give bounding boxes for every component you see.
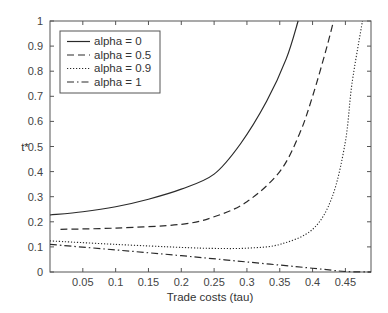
x-tick-label: 0.1 xyxy=(108,276,123,288)
x-axis-label: Trade costs (tau) xyxy=(167,291,254,303)
y-tick-label: 1 xyxy=(37,15,43,27)
x-tick-label: 0.4 xyxy=(305,276,320,288)
y-tick-label: 0.3 xyxy=(28,191,43,203)
x-tick-label: 0.35 xyxy=(269,276,290,288)
y-tick-label: 0.2 xyxy=(28,216,43,228)
legend-label: alpha = 0 xyxy=(94,35,142,47)
series-dashdot-line xyxy=(50,244,371,272)
legend-label: alpha = 0.5 xyxy=(94,49,151,61)
y-tick-label: 0.1 xyxy=(28,241,43,253)
y-axis-label: t* xyxy=(21,141,29,153)
x-tick-label: 0.15 xyxy=(138,276,159,288)
y-tick-label: 0.8 xyxy=(28,65,43,77)
y-tick-label: 0 xyxy=(37,266,43,278)
x-tick-label: 0.05 xyxy=(72,276,93,288)
y-tick-label: 0.9 xyxy=(28,40,43,52)
x-tick-label: 0.2 xyxy=(174,276,189,288)
y-tick-label: 0.5 xyxy=(28,141,43,153)
legend: alpha = 0alpha = 0.5alpha = 0.9alpha = 1 xyxy=(60,31,160,93)
x-tick-label: 0.3 xyxy=(239,276,254,288)
y-tick-label: 0.7 xyxy=(28,90,43,102)
legend-label: alpha = 0.9 xyxy=(94,62,151,74)
x-tick-label: 0.25 xyxy=(203,276,224,288)
line-chart: 0.050.10.150.20.250.30.350.40.4500.10.20… xyxy=(0,0,388,313)
x-tick-label: 0.45 xyxy=(335,276,356,288)
legend-label: alpha = 1 xyxy=(94,76,142,88)
y-tick-label: 0.6 xyxy=(28,115,43,127)
y-tick-label: 0.4 xyxy=(28,166,43,178)
